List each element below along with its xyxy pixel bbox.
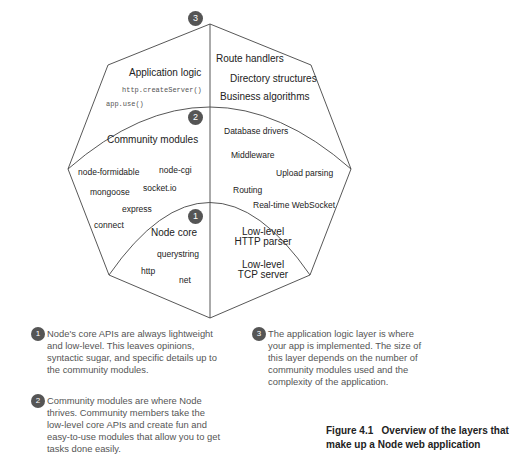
core-item-tcp-server-line2: TCP server bbox=[238, 269, 288, 280]
core-item-http-parser: Low-level HTTP parser bbox=[228, 227, 298, 247]
community-item-middleware: Middleware bbox=[231, 151, 274, 160]
figure-caption: Figure 4.1 Overview of the layers that m… bbox=[326, 424, 509, 452]
note-badge-2: 2 bbox=[31, 394, 45, 408]
figure-caption-line1: Figure 4.1 Overview of the layers that bbox=[326, 425, 509, 436]
badge-node-core: 1 bbox=[188, 209, 203, 224]
note-text-2: Community modules are where Node thrives… bbox=[31, 395, 221, 455]
layer-title-community-modules: Community modules bbox=[107, 135, 198, 145]
badge-application-logic: 3 bbox=[188, 11, 203, 26]
module-node-cgi: node-cgi bbox=[159, 166, 192, 175]
note-3: 3 The application logic layer is where y… bbox=[252, 328, 427, 388]
core-module-net: net bbox=[179, 276, 191, 285]
core-module-querystring: querystring bbox=[157, 250, 199, 259]
note-badge-3: 3 bbox=[252, 327, 266, 341]
module-mongoose: mongoose bbox=[90, 188, 130, 197]
code-http-createserver: http.createServer() bbox=[122, 87, 202, 94]
module-socket-io: socket.io bbox=[143, 184, 177, 193]
app-item-business-algorithms: Business algorithms bbox=[220, 92, 309, 102]
module-connect: connect bbox=[94, 221, 124, 230]
module-express: express bbox=[122, 205, 152, 214]
app-item-directory-structures: Directory structures bbox=[230, 74, 317, 84]
note-2: 2 Community modules are where Node thriv… bbox=[31, 395, 221, 455]
core-item-http-parser-line2: HTTP parser bbox=[234, 236, 291, 247]
note-1: 1 Node's core APIs are always lightweigh… bbox=[31, 328, 231, 376]
note-text-1: Node's core APIs are always lightweight … bbox=[31, 328, 231, 376]
note-text-3: The application logic layer is where you… bbox=[252, 328, 427, 388]
layer-title-application-logic: Application logic bbox=[129, 68, 201, 78]
layer-title-node-core: Node core bbox=[151, 228, 197, 238]
app-item-route-handlers: Route handlers bbox=[216, 54, 284, 64]
code-app-use: app.use() bbox=[106, 101, 144, 108]
note-badge-1: 1 bbox=[31, 327, 45, 341]
community-item-realtime-websocket: Real-time WebSocket bbox=[253, 201, 335, 210]
module-node-formidable: node-formidable bbox=[78, 168, 139, 177]
badge-community-modules: 2 bbox=[188, 110, 203, 125]
figure-caption-line2: make up a Node web application bbox=[326, 439, 480, 450]
core-module-http: http bbox=[141, 267, 155, 276]
community-item-routing: Routing bbox=[233, 186, 262, 195]
core-item-tcp-server: Low-level TCP server bbox=[228, 260, 298, 280]
layer-diagram bbox=[0, 0, 513, 330]
community-item-database-drivers: Database drivers bbox=[224, 127, 288, 136]
community-item-upload-parsing: Upload parsing bbox=[276, 169, 333, 178]
